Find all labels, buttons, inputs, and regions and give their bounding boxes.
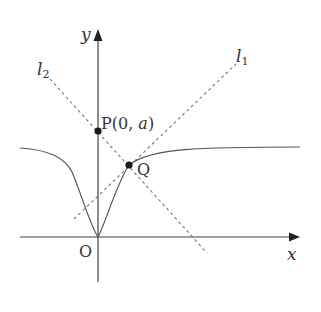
line-l2-label: l2 xyxy=(37,59,49,81)
y-axis-arrow-icon xyxy=(94,29,103,41)
diagram-canvas: y x O l1 l2 P(0, a) Q xyxy=(0,0,321,312)
x-axis-label: x xyxy=(287,244,297,264)
origin-label: O xyxy=(79,242,92,261)
line-l1-label: l1 xyxy=(236,46,248,68)
point-q-label: Q xyxy=(137,160,150,179)
point-p-label: P(0, a) xyxy=(101,114,154,133)
x-axis-arrow-icon xyxy=(289,233,300,242)
point-q-marker xyxy=(125,161,132,168)
function-curve xyxy=(20,147,300,237)
coordinate-diagram: y x O l1 l2 P(0, a) Q xyxy=(0,0,321,312)
y-axis-label: y xyxy=(80,24,91,44)
